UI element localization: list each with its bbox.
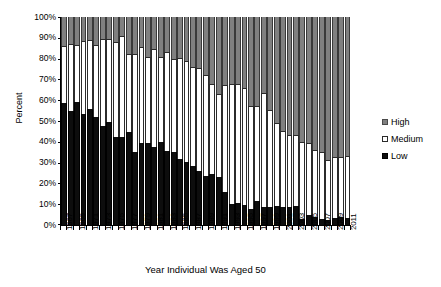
bar-segment-high [332,17,338,157]
bar-segment-medium [203,75,209,176]
x-axis-tick-label: 1981 [157,213,165,230]
bar-segment-medium [287,135,293,208]
bar-segment-high [68,17,74,44]
bar-segment-medium [332,157,338,217]
bar-segment-medium [261,93,267,207]
bar-segment-medium [171,59,177,153]
bar-segment-medium [113,42,119,137]
bar-segment-high [306,17,312,143]
high-swatch-icon [382,119,388,125]
bar-column [145,17,151,225]
bar-segment-medium [235,84,241,204]
y-axis-tick-mark [58,163,61,164]
bar-segment-high [312,17,318,150]
bar-column [74,17,80,225]
bar-column [216,17,222,225]
y-axis-tick-label: 50% [18,117,56,126]
bar-column [126,17,132,225]
bar-segment-high [261,17,267,93]
bar-segment-medium [164,52,170,151]
bar-segment-medium [68,44,74,111]
bar-segment-high [87,17,93,40]
bar-segment-medium [280,131,286,207]
x-axis-tick-label: 2007 [324,213,332,230]
legend-item-label: Low [391,151,408,161]
bar-segment-high [184,17,190,61]
x-axis-tick-label: 2005 [311,213,319,230]
bar-segment-high [126,17,132,54]
bar-segment-medium [274,123,280,206]
y-axis-tick-mark [58,38,61,39]
bar-segment-medium [81,41,87,114]
bar-segment-high [338,17,344,157]
y-axis-tick-label: 100% [18,13,56,22]
legend-item-label: High [391,117,410,127]
bar-segment-high [287,17,293,135]
bar-column [319,17,325,225]
bar-segment-low [68,111,74,225]
bar-segment-high [216,17,222,94]
y-axis-tick-labels: 100%90%80%70%60%50%40%30%20%10%0% [18,12,56,226]
x-axis-tick-label: 2001 [286,213,294,230]
y-axis-tick-mark [58,121,61,122]
x-axis-tick-label: 2009 [337,213,345,230]
bar-segment-high [139,17,145,47]
bar-column [68,17,74,225]
bar-segment-medium [345,156,351,217]
bar-segment-high [74,17,80,45]
bar-column [345,17,351,225]
bar-segment-medium [254,106,260,201]
bar-column [106,17,112,225]
bar-column [190,17,196,225]
bar-segment-high [280,17,286,131]
low-swatch-icon [382,153,388,159]
bar-segment-low [61,103,67,225]
x-axis-tick-label: 1969 [79,213,87,230]
bar-segment-medium [119,36,125,137]
y-axis-tick-label: 40% [18,137,56,146]
bar-segment-low [113,137,119,225]
bar-column [332,17,338,225]
bar-segment-high [145,17,151,57]
bar-column [93,17,99,225]
bar-segment-medium [184,61,190,162]
y-axis-tick-mark [58,224,61,225]
y-axis-tick-mark [58,79,61,80]
bars-container [61,17,351,225]
bar-column [306,17,312,225]
bar-segment-high [254,17,260,106]
bar-column [164,17,170,225]
stacked-bar-chart: Percent 100%90%80%70%60%50%40%30%20%10%0… [0,0,441,287]
x-axis-tick-label: 1989 [208,213,216,230]
bar-column [235,17,241,225]
y-axis-tick-mark [58,183,61,184]
x-axis-tick-label: 1991 [221,213,229,230]
x-axis-tick-label: 1995 [247,213,255,230]
bar-segment-medium [139,47,145,143]
bar-column [299,17,305,225]
bar-segment-medium [190,67,196,166]
bar-segment-medium [177,58,183,160]
y-axis-tick-label: 0% [18,221,56,230]
bar-segment-high [235,17,241,84]
bar-segment-high [267,17,273,110]
x-axis-tick-label: 1985 [182,213,190,230]
bar-column [261,17,267,225]
bar-segment-medium [61,46,67,103]
medium-swatch-icon [382,136,388,142]
bar-segment-medium [267,110,273,208]
bar-segment-low [100,126,106,225]
bar-segment-medium [242,88,248,206]
bar-column [132,17,138,225]
bar-segment-high [151,17,157,49]
bar-segment-high [196,17,202,68]
bar-segment-high [190,17,196,67]
bar-column [203,17,209,225]
bar-segment-medium [319,152,325,219]
bar-segment-medium [87,40,93,109]
bar-segment-medium [196,68,202,171]
bar-segment-high [171,17,177,59]
bar-segment-high [158,17,164,57]
y-axis-tick-mark [58,59,61,60]
bar-column [61,17,67,225]
